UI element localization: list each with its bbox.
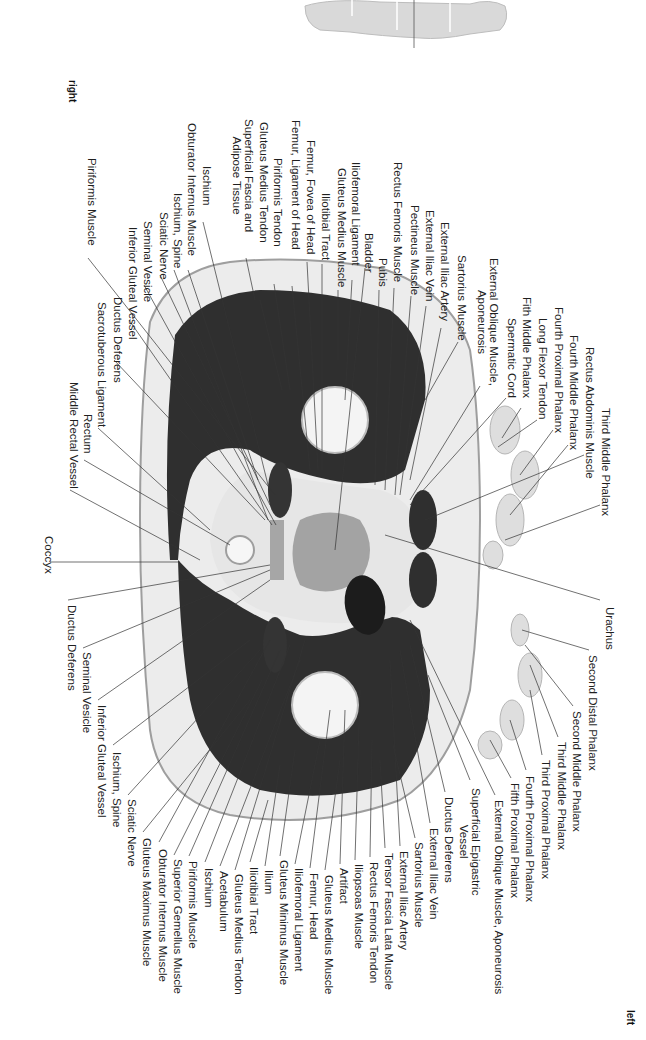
anatomy-label: Gluteus Medius Muscle bbox=[336, 168, 348, 288]
anatomy-label: Fourth Proximal Phalanx bbox=[553, 307, 565, 433]
anatomy-label: Fifth Proximal Phalanx bbox=[509, 783, 521, 898]
anatomy-label: Ischium bbox=[203, 868, 215, 908]
anatomy-label: External Oblique Muscle, Aponeurosis bbox=[493, 800, 505, 994]
anatomy-label: Femur, Head bbox=[308, 873, 320, 939]
anatomy-label: Pectineus Muscle bbox=[409, 205, 421, 295]
anatomy-label: Spermatic Cord bbox=[506, 318, 518, 398]
anatomy-label: Obturator Internus Muscle bbox=[157, 849, 169, 982]
anatomy-label: Tensor Fascia Lata Muscle bbox=[383, 853, 395, 990]
anatomy-label: Ductus Deferens bbox=[443, 797, 455, 883]
anatomy-label: Fourth Proximal Phalanx bbox=[524, 776, 536, 902]
anatomy-label: Gluteus Maximus Muscle bbox=[141, 838, 153, 966]
anatomy-label: Ischium bbox=[201, 166, 213, 206]
anatomy-label: Seminal Vesicle bbox=[81, 652, 93, 733]
anatomy-label: Piriformis Tendon bbox=[272, 158, 284, 247]
anatomy-label: Urachus bbox=[604, 607, 616, 650]
pelvis-cross-section bbox=[140, 260, 480, 820]
anatomy-label: Superficial Epigastric Vessel bbox=[458, 788, 482, 895]
anatomy-label: Obturator Internus Muscle bbox=[186, 123, 198, 256]
anatomy-label: Ischium, Spine bbox=[172, 193, 184, 268]
anatomy-label: Femur, Fovea of Head bbox=[305, 140, 317, 254]
anatomy-label: Fourth Middle Phalanx bbox=[568, 335, 580, 450]
anatomy-label: Ductus Deferens bbox=[112, 297, 124, 383]
anatomy-label: Superficial Fascia and Adipose Tissue bbox=[231, 119, 255, 232]
anatomy-label: Long Flexor Tendon bbox=[537, 318, 549, 419]
anatomy-label: Superior Gemellus Muscle bbox=[172, 859, 184, 994]
anatomy-label: External Iliac Vein bbox=[424, 210, 436, 301]
anatomy-label: Second Distal Phalanx bbox=[587, 655, 599, 771]
anatomy-label: Bladder bbox=[363, 233, 375, 273]
anatomy-label: Ilium bbox=[263, 870, 275, 894]
anatomy-label: Sartorius Muscle bbox=[413, 842, 425, 928]
anatomy-label: Iliofemoral Ligament bbox=[293, 868, 305, 972]
anatomy-label: Pubis bbox=[377, 258, 389, 287]
anatomy-label: External Iliac Vein bbox=[428, 828, 440, 919]
anatomy-label: Gluteus Medius Tendon bbox=[233, 874, 245, 995]
anatomy-label: Sciatic Nerve bbox=[158, 212, 170, 280]
anatomy-label: Third Proximal Phalanx bbox=[540, 760, 552, 879]
anatomy-label: External Oblique Muscle, Aponeurosis bbox=[476, 258, 500, 386]
anatomy-label: Seminal Vesicle bbox=[142, 221, 154, 302]
anatomy-label: Femur, Ligament of Head bbox=[290, 120, 302, 250]
anatomy-label: Inferior Gluteal Vessel bbox=[96, 705, 108, 818]
anatomy-label: Rectus Femoris Muscle bbox=[392, 162, 404, 282]
anatomy-label: Rectum bbox=[82, 414, 94, 454]
anatomy-label: External Iliac Artery bbox=[439, 222, 451, 321]
anatomy-label: Rectus Femoris Tendon bbox=[368, 862, 380, 983]
anatomy-label: Inferior Gluteal Vessel bbox=[127, 227, 139, 340]
anatomy-label: Ischium, Spine bbox=[111, 752, 123, 827]
anatomy-label: Sartorius Muscle bbox=[456, 255, 468, 341]
hand-sections bbox=[478, 406, 542, 759]
anatomy-label: Iliofemoral Ligament bbox=[350, 162, 362, 266]
anatomy-label: Third Middle Phalanx bbox=[556, 742, 568, 850]
anatomy-figure: right left Piriformis MuscleSuperficial … bbox=[0, 0, 646, 1040]
anatomy-label: Gluteus Medius Muscle bbox=[323, 875, 335, 995]
anatomy-label: Rectus Abdominis Muscle bbox=[584, 347, 596, 479]
anatomy-label: External Iliac Artery bbox=[398, 851, 410, 950]
anatomy-label: Iliotibial Tract bbox=[248, 867, 260, 934]
body-locator-thumbnail bbox=[305, 0, 507, 48]
anatomy-label: Sciatic Nerve bbox=[126, 799, 138, 867]
anatomy-label: Iliopsoas Muscle bbox=[353, 864, 365, 949]
orientation-left: left bbox=[625, 1010, 636, 1025]
anatomy-label: Third Middle Phalanx bbox=[600, 408, 612, 516]
anatomy-label: Coccyx bbox=[43, 536, 55, 574]
anatomy-label: Middle Rectal Vessel bbox=[68, 382, 80, 489]
anatomy-label: Second Middle Phalanx bbox=[571, 711, 583, 832]
anatomy-label: Fith Middle Phalanx bbox=[521, 297, 533, 398]
anatomy-label: Acetabulum bbox=[218, 871, 230, 932]
anatomy-label: Artifact bbox=[338, 868, 350, 904]
anatomy-label: Sacrotuberous Ligament bbox=[96, 302, 108, 427]
anatomy-label: Gluteus Medius Tendon bbox=[258, 122, 270, 243]
anatomy-label: Piriformis Muscle bbox=[187, 861, 199, 949]
orientation-right: right bbox=[67, 80, 78, 102]
anatomy-label: Ductus Deferens bbox=[66, 605, 78, 691]
anatomy-label: Iliotibial Tract bbox=[320, 193, 332, 260]
anatomy-label: Piriformis Muscle bbox=[86, 158, 98, 246]
anatomy-label: Gluteus Minimus Muscle bbox=[278, 860, 290, 985]
